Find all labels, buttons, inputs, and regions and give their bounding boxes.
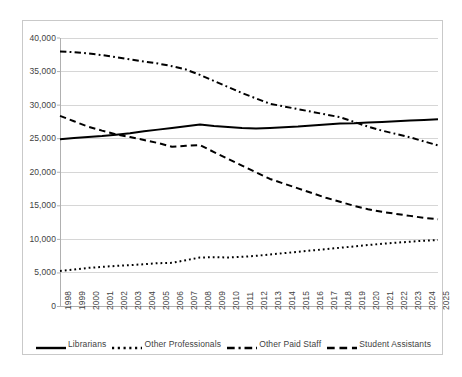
y-axis-tick-label: 30,000 [18, 100, 56, 110]
series-line-other-professionals [60, 240, 438, 271]
y-axis-tick-label: 0 [18, 301, 56, 311]
y-axis-tick-label: 20,000 [18, 167, 56, 177]
x-axis-tick-label: 1998 [63, 291, 73, 310]
legend-item-label: Student Assistants [359, 339, 431, 349]
legend-swatch-icon [227, 339, 257, 349]
x-axis-tick-label: 2006 [175, 291, 185, 310]
x-axis-tick-label: 2025 [441, 291, 451, 310]
x-axis-tick-label: 2002 [119, 291, 129, 310]
x-axis-tick-label: 2005 [161, 291, 171, 310]
x-axis-tick-label: 1999 [77, 291, 87, 310]
x-axis-tick-label: 2003 [133, 291, 143, 310]
x-axis-tick-label: 2014 [287, 291, 297, 310]
legend-swatch-icon [36, 339, 66, 349]
x-axis-tick-label: 2016 [315, 291, 325, 310]
x-axis-tick-label: 2012 [259, 291, 269, 310]
y-axis-tick-label: 40,000 [18, 33, 56, 43]
x-axis-tick-label: 2007 [189, 291, 199, 310]
axis-lines [57, 38, 60, 307]
y-axis-tick-label: 25,000 [18, 133, 56, 143]
series-lines [60, 51, 438, 270]
x-axis-tick-label: 2017 [329, 291, 339, 310]
legend-item-librarians[interactable]: Librarians [36, 337, 106, 351]
y-axis-tick-label: 5,000 [18, 267, 56, 277]
x-axis-tick-label: 2013 [273, 291, 283, 310]
x-axis-tick-label: 2000 [91, 291, 101, 310]
chart-legend: LibrariansOther ProfessionalsOther Paid … [36, 337, 431, 351]
x-axis-tick-label: 2021 [385, 291, 395, 310]
x-axis-tick-label: 2004 [147, 291, 157, 310]
y-axis-tick-label: 15,000 [18, 200, 56, 210]
x-axis-tick-label: 2011 [245, 291, 255, 309]
legend-item-student-assistants[interactable]: Student Assistants [327, 337, 431, 351]
legend-item-label: Librarians [68, 339, 106, 349]
line-chart: 05,00010,00015,00020,00025,00030,00035,0… [0, 0, 462, 377]
x-axis-tick-label: 2024 [427, 291, 437, 310]
legend-item-label: Other Paid Staff [259, 339, 321, 349]
series-line-librarians [60, 119, 438, 139]
y-axis-tick-label: 35,000 [18, 66, 56, 76]
legend-item-other-paid-staff[interactable]: Other Paid Staff [227, 337, 321, 351]
series-line-student-assistants [60, 116, 438, 219]
legend-item-label: Other Professionals [144, 339, 221, 349]
legend-swatch-icon [327, 339, 357, 349]
gridlines [60, 38, 438, 307]
x-axis-tick-label: 2023 [413, 291, 423, 310]
x-axis-tick-label: 2015 [301, 291, 311, 310]
legend-swatch-icon [112, 339, 142, 349]
x-axis-tick-label: 2022 [399, 291, 409, 310]
x-axis-tick-label: 2019 [357, 291, 367, 310]
series-line-other-paid-staff [60, 51, 438, 145]
x-axis-tick-label: 2009 [217, 291, 227, 310]
x-axis-tick-label: 2001 [105, 291, 115, 310]
y-axis-tick-label: 10,000 [18, 234, 56, 244]
x-axis-tick-label: 2020 [371, 291, 381, 310]
chart-canvas [0, 0, 462, 377]
x-axis-tick-label: 2010 [231, 291, 241, 310]
x-axis-tick-label: 2018 [343, 291, 353, 310]
x-axis-tick-label: 2008 [203, 291, 213, 310]
legend-item-other-professionals[interactable]: Other Professionals [112, 337, 221, 351]
